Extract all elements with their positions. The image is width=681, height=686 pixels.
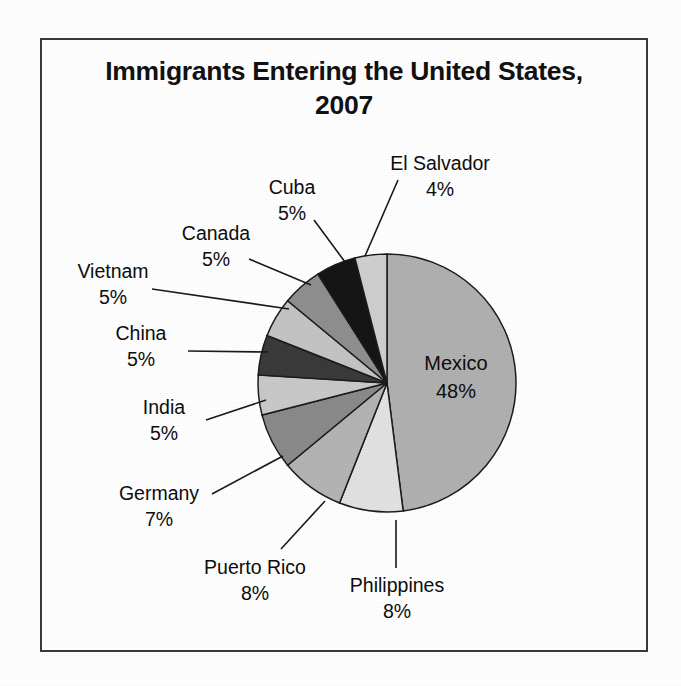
chart-title-line-1: Immigrants Entering the United States, bbox=[40, 55, 648, 89]
chart-title-line-2: 2007 bbox=[40, 89, 648, 123]
chart-title: Immigrants Entering the United States, 2… bbox=[40, 55, 648, 123]
figure-frame bbox=[40, 38, 648, 652]
